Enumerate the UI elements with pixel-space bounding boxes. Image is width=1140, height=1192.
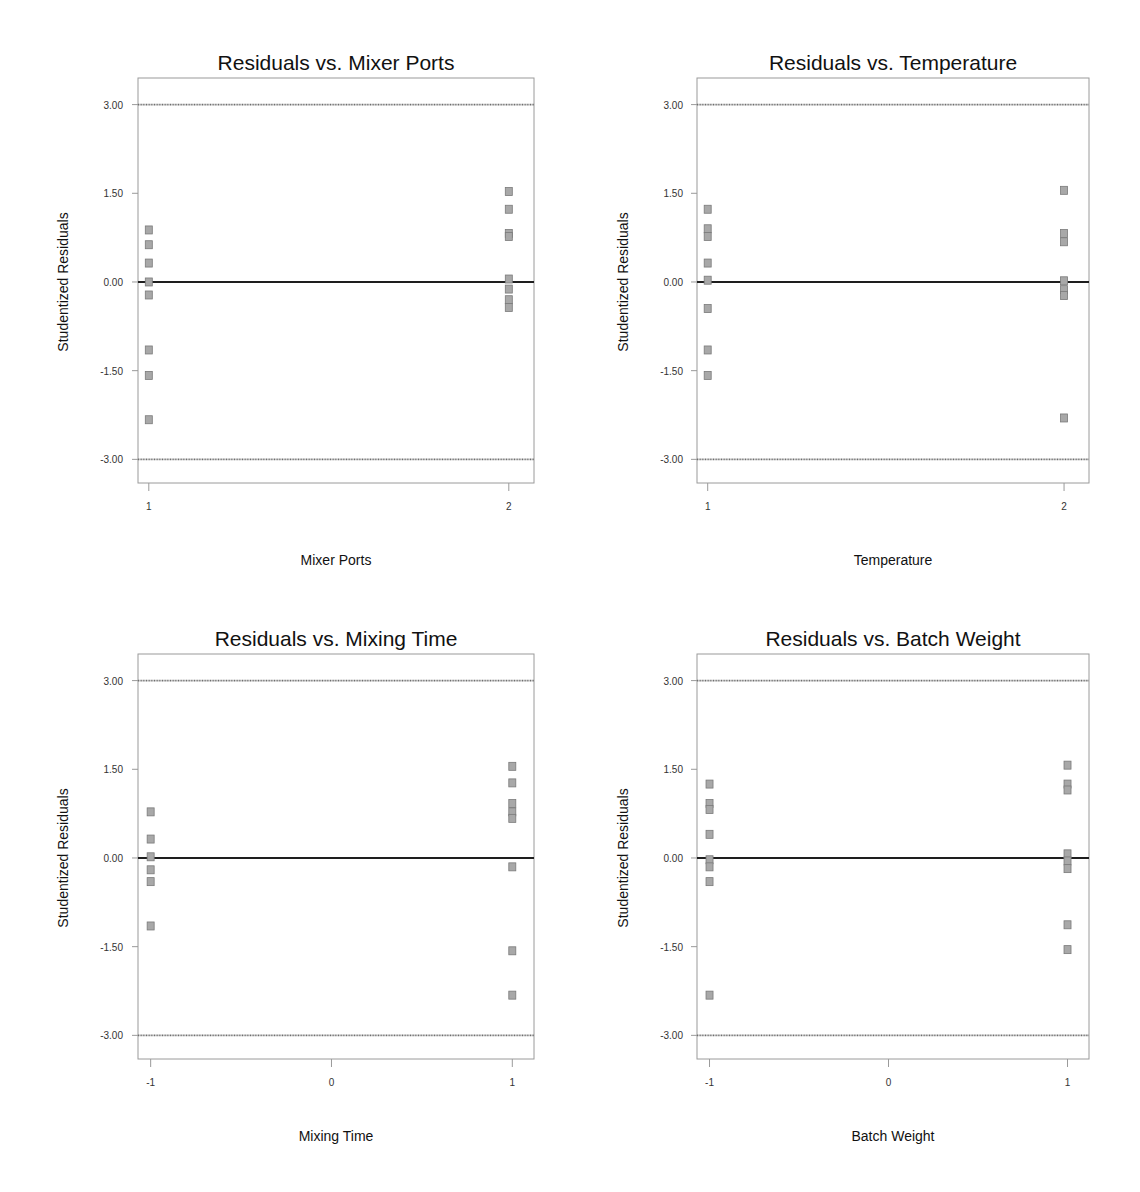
residual-point	[706, 991, 713, 999]
residual-point	[509, 863, 516, 871]
residual-point	[505, 275, 512, 283]
x-tick-label: 1	[510, 1077, 516, 1088]
residual-point	[704, 232, 711, 240]
residual-point	[706, 863, 713, 871]
residual-point	[509, 814, 516, 822]
x-tick-label: 1	[705, 501, 711, 512]
residual-point	[1064, 786, 1071, 794]
x-tick-label: 1	[1065, 1077, 1071, 1088]
residual-point	[147, 922, 154, 930]
chart-title: Residuals vs. Batch Weight	[765, 627, 1020, 650]
chart-title: Residuals vs. Temperature	[769, 51, 1017, 74]
y-tick-label: 3.00	[664, 676, 684, 687]
residual-point	[147, 835, 154, 843]
plot-frame	[697, 78, 1089, 483]
y-tick-label: -3.00	[100, 454, 123, 465]
x-tick-label: -1	[146, 1077, 155, 1088]
residual-point	[706, 780, 713, 788]
plot-frame	[138, 654, 534, 1059]
residual-point	[706, 878, 713, 886]
residual-point	[509, 779, 516, 787]
residual-point	[145, 241, 152, 249]
residual-point	[1064, 921, 1071, 929]
chart-title: Residuals vs. Mixing Time	[215, 627, 458, 650]
x-tick-label: 0	[886, 1077, 892, 1088]
residual-point	[145, 278, 152, 286]
residual-point	[505, 285, 512, 293]
residual-point	[1061, 229, 1068, 237]
residual-point	[509, 991, 516, 999]
residual-point	[1064, 865, 1071, 873]
residual-point	[145, 416, 152, 424]
residual-point	[509, 800, 516, 808]
residual-point	[147, 808, 154, 816]
chart-title: Residuals vs. Mixer Ports	[218, 51, 455, 74]
residual-point	[704, 259, 711, 267]
residual-point	[147, 853, 154, 861]
x-tick-label: -1	[705, 1077, 714, 1088]
y-tick-label: 0.00	[664, 277, 684, 288]
residual-point	[147, 878, 154, 886]
residual-chart-2: Residuals vs. Temperature3.001.500.00-1.…	[615, 51, 1089, 568]
residual-point	[1061, 277, 1068, 285]
x-tick-label: 0	[329, 1077, 335, 1088]
residual-point	[145, 259, 152, 267]
residual-point	[509, 762, 516, 770]
residual-point	[147, 866, 154, 874]
residual-chart-4: Residuals vs. Batch Weight3.001.500.00-1…	[615, 627, 1089, 1144]
y-tick-label: 1.50	[664, 188, 684, 199]
y-tick-label: -3.00	[660, 1030, 683, 1041]
residual-point	[145, 291, 152, 299]
y-tick-label: 1.50	[664, 764, 684, 775]
residual-plots-figure: Residuals vs. Mixer Ports3.001.500.00-1.…	[0, 0, 1140, 1192]
residual-point	[505, 296, 512, 304]
y-tick-label: -1.50	[660, 366, 683, 377]
y-tick-label: -1.50	[660, 942, 683, 953]
plot-frame	[138, 78, 534, 483]
x-tick-label: 1	[146, 501, 152, 512]
residual-point	[145, 226, 152, 234]
residual-point	[505, 205, 512, 213]
residual-chart-3: Residuals vs. Mixing Time3.001.500.00-1.…	[55, 627, 534, 1144]
y-tick-label: 3.00	[664, 100, 684, 111]
residual-point	[704, 371, 711, 379]
residual-point	[1061, 186, 1068, 194]
plot-frame	[697, 654, 1089, 1059]
residual-point	[1061, 414, 1068, 422]
y-tick-label: 0.00	[104, 853, 124, 864]
x-axis-label: Mixer Ports	[301, 552, 372, 568]
y-tick-label: 1.50	[104, 764, 124, 775]
y-axis-label: Studentized Residuals	[55, 212, 71, 351]
residual-point	[704, 276, 711, 284]
x-axis-label: Temperature	[854, 552, 933, 568]
x-axis-label: Mixing Time	[299, 1128, 374, 1144]
residual-point	[505, 188, 512, 196]
residual-chart-1: Residuals vs. Mixer Ports3.001.500.00-1.…	[55, 51, 534, 568]
y-tick-label: 1.50	[104, 188, 124, 199]
residual-point	[1064, 857, 1071, 865]
y-tick-label: -3.00	[100, 1030, 123, 1041]
y-axis-label: Studentized Residuals	[55, 788, 71, 927]
residual-point	[505, 303, 512, 311]
residual-point	[509, 947, 516, 955]
residual-point	[704, 205, 711, 213]
y-axis-label: Studentized Residuals	[615, 212, 631, 351]
residual-point	[706, 805, 713, 813]
x-tick-label: 2	[506, 501, 512, 512]
y-tick-label: 0.00	[104, 277, 124, 288]
y-tick-label: 3.00	[104, 100, 124, 111]
x-tick-label: 2	[1061, 501, 1067, 512]
residual-point	[1064, 761, 1071, 769]
residual-point	[704, 225, 711, 233]
residual-point	[145, 371, 152, 379]
residual-point	[706, 830, 713, 838]
residual-point	[704, 346, 711, 354]
residual-point	[145, 346, 152, 354]
y-axis-label: Studentized Residuals	[615, 788, 631, 927]
y-tick-label: -1.50	[100, 942, 123, 953]
residual-point	[505, 232, 512, 240]
y-tick-label: -3.00	[660, 454, 683, 465]
residual-point	[1061, 292, 1068, 300]
y-tick-label: -1.50	[100, 366, 123, 377]
residual-point	[1061, 238, 1068, 246]
